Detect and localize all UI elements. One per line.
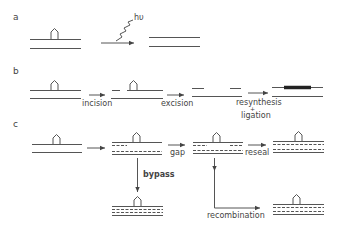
lesion-icon [213,133,220,143]
recombined-dna [273,195,324,215]
lesion-icon [51,29,58,40]
lesion-icon [295,132,302,142]
gapped-dna [193,133,243,154]
resealed-dna [273,132,324,153]
lesion-icon [293,195,300,205]
incised-dna [111,81,163,99]
lesion-icon [51,81,58,91]
dna-with-lesion-c [32,135,82,153]
dna-with-lesion-a [30,29,81,49]
dna-with-lesion-b [30,81,81,99]
recombination-arrow [215,171,261,208]
lesion-icon [53,135,60,145]
lesion-icon [133,133,140,143]
lesion-icon [134,197,141,207]
dna-repair-diagram [0,0,340,232]
photon-zigzag-icon [116,20,133,41]
excised-dna [192,89,242,97]
lesion-icon [130,81,137,91]
repaired-dna-a [149,38,200,47]
replicating-dna-1 [112,133,162,155]
bypassed-dna [112,197,163,216]
resynthesized-dna [272,88,323,97]
